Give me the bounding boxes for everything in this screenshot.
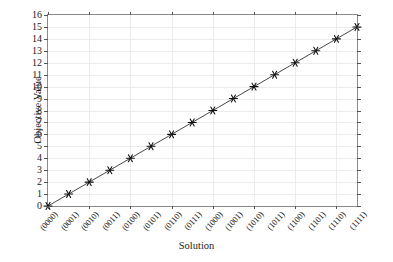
data-point-marker [250,83,258,90]
series-line-markers [48,15,357,206]
y-axis-tick-right [357,194,361,195]
x-axis-tick-label: (1011) [265,210,286,232]
y-axis-tick-label: 7 [37,117,42,127]
x-axis-tick-label: (0100) [121,210,142,232]
x-axis-tick-top [336,12,337,15]
y-axis-tick [44,182,48,183]
y-axis-tick-label: 16 [32,10,42,20]
x-axis-title: Solution [0,240,393,251]
x-axis-tick-top [254,12,255,15]
chart-figure: Objective Value 012345678910111213141516… [0,0,393,262]
data-point-marker [209,107,217,114]
y-axis-tick-label: 12 [32,58,42,68]
y-axis-tick-right [357,170,361,171]
x-axis-tick [295,206,296,209]
data-point-marker [271,71,279,78]
y-axis-tick [44,134,48,135]
x-axis-tick-label: (0101) [141,210,162,232]
x-axis-tick [254,206,255,209]
y-axis-tick-label: 10 [32,82,42,92]
y-axis-tick-label: 6 [37,129,42,139]
plot-area: 012345678910111213141516(0000)(0001)(001… [47,14,358,207]
data-point-marker [126,155,134,162]
x-axis-tick-label: (1001) [224,210,245,232]
x-axis-tick-label: (0110) [162,210,183,232]
y-axis-tick-label: 3 [37,165,42,175]
x-axis-tick-label: (0000) [38,210,59,232]
data-point-marker [332,35,340,42]
x-axis-tick-label: (1110) [327,210,348,232]
data-point-marker [312,47,320,54]
y-axis-tick [44,170,48,171]
x-axis-tick [130,206,131,209]
x-axis-tick [172,206,173,209]
y-axis-tick-label: 14 [32,34,42,44]
x-axis-tick-label: (0111) [183,210,204,232]
x-axis-tick-top [130,12,131,15]
y-axis-tick-label: 2 [37,177,42,187]
y-axis-tick-right [357,99,361,100]
series-line [48,27,357,206]
x-axis-tick-label: (0010) [79,210,100,232]
x-axis-tick [48,206,49,209]
x-axis-tick-top [295,12,296,15]
y-axis-tick-right [357,146,361,147]
y-axis-tick-label: 13 [32,46,42,56]
x-axis-tick [89,206,90,209]
data-point-marker [168,131,176,138]
x-axis-tick [336,206,337,209]
x-axis-tick-label: (1101) [306,210,327,232]
y-axis-tick-right [357,15,361,16]
y-axis-tick-label: 1 [37,189,42,199]
y-axis-tick-right [357,158,361,159]
y-axis-tick [44,146,48,147]
y-axis-tick [44,39,48,40]
data-layer [48,15,357,206]
data-point-marker [229,95,237,102]
x-axis-tick-label: (0011) [100,210,121,232]
data-point-marker [85,179,93,186]
y-axis-tick-label: 8 [37,106,42,116]
y-axis-tick [44,122,48,123]
y-axis-tick-right [357,206,361,207]
y-axis-tick-label: 9 [37,94,42,104]
y-axis-tick [44,15,48,16]
y-axis-tick [44,87,48,88]
y-axis-tick-right [357,122,361,123]
x-axis-tick-label: (0001) [59,210,80,232]
x-axis-tick-top [213,12,214,15]
x-axis-tick-label: (1010) [244,210,265,232]
y-axis-tick-label: 15 [32,22,42,32]
x-axis-tick-top [172,12,173,15]
y-axis-tick [44,51,48,52]
y-axis-tick [44,63,48,64]
data-point-marker [106,167,114,174]
y-axis-tick-right [357,63,361,64]
y-axis-tick [44,194,48,195]
data-point-marker [291,59,299,66]
y-axis-tick-right [357,182,361,183]
y-axis-tick-label: 4 [37,153,42,163]
x-axis-tick [213,206,214,209]
x-axis-tick-label: (1000) [203,210,224,232]
y-axis-tick-right [357,27,361,28]
y-axis-tick-right [357,134,361,135]
data-point-marker [188,119,196,126]
y-axis-tick-label: 0 [37,201,42,211]
data-point-marker [65,191,73,198]
y-axis-tick-label: 11 [32,70,42,80]
y-axis-tick [44,27,48,28]
x-axis-tick-top [48,12,49,15]
y-axis-tick-right [357,75,361,76]
data-point-marker [147,143,155,150]
y-axis-tick-label: 5 [37,141,42,151]
x-axis-tick-top [89,12,90,15]
y-axis-tick-right [357,51,361,52]
y-axis-tick-right [357,39,361,40]
y-axis-tick-right [357,87,361,88]
y-axis-tick-right [357,111,361,112]
x-axis-tick-label: (1111) [348,210,369,232]
y-axis-tick [44,75,48,76]
y-axis-tick [44,99,48,100]
x-axis-tick-label: (1100) [286,210,307,232]
